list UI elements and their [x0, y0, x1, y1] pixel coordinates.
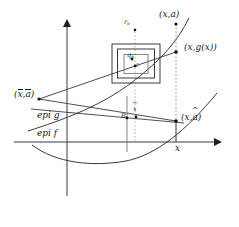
- diagram-canvas: [0, 0, 239, 227]
- label-point-x-a: (x,a): [159, 10, 179, 19]
- point-marker-xtilde: [135, 116, 138, 119]
- point-marker-x-gx: [174, 50, 178, 54]
- epigraph-diagram: (x,a) (x,g(x)) (x,a) epi g epi f (x,a) x…: [0, 0, 239, 227]
- point-marker-xbar-abar: [37, 97, 40, 100]
- abar-overline: a: [25, 90, 30, 99]
- label-r-n: rn: [124, 19, 130, 27]
- point-marker-B: [126, 117, 129, 120]
- point-marker-x-a: [174, 22, 177, 25]
- label-epi-g: epi g: [37, 111, 60, 120]
- point-marker-x-ahat: [174, 119, 178, 123]
- curve-f: [32, 93, 217, 164]
- x-plain: x: [185, 112, 190, 122]
- r-subscript: n: [127, 21, 130, 26]
- xtilde-tilde: x: [133, 106, 137, 113]
- label-B: B: [121, 113, 126, 120]
- label-point-x-a-text: (x,a): [159, 9, 179, 19]
- label-x-tilde: x: [133, 106, 137, 113]
- label-point-xbar-abar: (x,a): [14, 90, 34, 99]
- q-subscript: n: [131, 54, 134, 59]
- label-point-x-ahat: (x,a): [181, 113, 201, 122]
- label-q-n: qn: [127, 52, 134, 60]
- cone-ray-upper: [39, 52, 176, 99]
- label-epi-f: epi f: [37, 129, 57, 138]
- label-x-axis-tick: x: [175, 144, 180, 153]
- xbar-overline: x: [18, 90, 23, 99]
- label-c: c: [135, 62, 139, 69]
- ahat-caret: a: [192, 113, 197, 122]
- point-marker-rn: [134, 29, 137, 32]
- label-point-x-gx: (x,g(x)): [184, 43, 217, 52]
